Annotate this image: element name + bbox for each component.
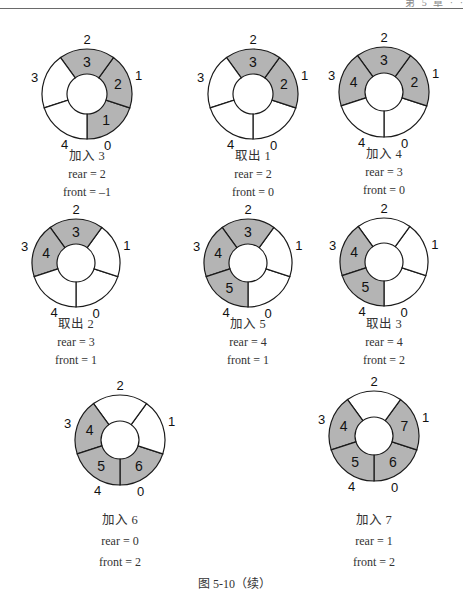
slot-index-label: 3 (31, 70, 38, 85)
slot-value: 4 (350, 74, 358, 90)
slot-index-label: 4 (222, 305, 229, 320)
slot-index-label: 1 (422, 410, 429, 425)
diagram-rear-text: rear = 0 (101, 534, 138, 548)
slot-value: 2 (411, 74, 419, 90)
queue-diagram-add-6: 64501234加入 6rear = 0front = 2 (64, 378, 175, 569)
slot-value: 5 (351, 454, 359, 470)
slot-index-label: 4 (50, 305, 57, 320)
slot-index-label: 4 (358, 304, 365, 319)
diagram-front-text: front = 2 (99, 555, 141, 569)
diagram-front-text: front = 1 (55, 353, 97, 367)
diagram-caption-text: 取出 2 (58, 317, 93, 331)
slot-value: 7 (401, 418, 409, 434)
slot-index-label: 4 (358, 135, 365, 150)
queue-diagram-add-4: 23401234加入 4rear = 3front = 0 (328, 30, 439, 197)
slot-value: 2 (280, 76, 288, 92)
diagram-caption-text: 加入 3 (69, 149, 104, 163)
slot-index-label: 4 (227, 137, 234, 152)
diagram-rear-text: rear = 4 (229, 335, 266, 349)
slot-value: 3 (83, 54, 91, 70)
diagram-caption-text: 加入 4 (366, 147, 402, 161)
diagram-rear-text: rear = 3 (365, 165, 402, 179)
queue-diagram-remove-3: 4501234取出 3rear = 4front = 2 (329, 201, 438, 367)
slot-index-label: 0 (104, 138, 111, 153)
slot-index-label: 1 (123, 238, 130, 253)
figure-caption: 图 5-10（续） (0, 574, 469, 592)
slot-value: 3 (244, 224, 252, 240)
slot-index-label: 0 (93, 306, 100, 321)
diagram-caption-text: 取出 3 (366, 317, 401, 331)
slot-index-label: 4 (348, 479, 355, 494)
slot-value: 2 (114, 76, 122, 92)
slot-value: 4 (42, 245, 50, 261)
queue-diagram-remove-1: 2301234取出 1rear = 2front = 0 (197, 32, 308, 199)
slot-value: 4 (340, 418, 348, 434)
diagram-front-text: front = 0 (232, 185, 274, 199)
queue-diagram-add-5: 34501234加入 5rear = 4front = 1 (193, 202, 302, 367)
slot-index-label: 3 (318, 412, 325, 427)
slot-value: 1 (102, 112, 110, 128)
slot-index-label: 0 (401, 136, 408, 151)
slot-index-label: 2 (116, 378, 123, 393)
diagram-rear-text: rear = 4 (365, 335, 402, 349)
slot-index-label: 2 (72, 202, 79, 217)
queue-diagram-add-7: 674501234加入 7rear = 1front = 2 (318, 374, 429, 569)
slot-index-label: 3 (328, 68, 335, 83)
slot-index-label: 2 (83, 32, 90, 47)
slot-value: 6 (389, 454, 397, 470)
circular-queue-diagrams: 12301234加入 3rear = 2front = –12301234取出 … (0, 0, 469, 596)
slot-index-label: 0 (391, 480, 398, 495)
slot-index-label: 1 (432, 66, 439, 81)
queue-slot-4-empty (210, 100, 253, 139)
slot-value: 5 (97, 458, 105, 474)
queue-slot-4-empty (341, 98, 384, 137)
slot-value: 4 (86, 422, 94, 438)
slot-index-label: 1 (168, 414, 175, 429)
slot-index-label: 1 (135, 68, 142, 83)
slot-value: 5 (362, 279, 370, 295)
slot-value: 5 (226, 280, 234, 296)
slot-index-label: 4 (61, 137, 68, 152)
diagram-caption-text: 加入 6 (102, 513, 137, 527)
slot-index-label: 2 (380, 30, 387, 45)
slot-index-label: 2 (380, 201, 387, 216)
slot-value: 3 (249, 54, 257, 70)
diagram-caption-text: 加入 7 (356, 513, 391, 527)
queue-slot-4-empty (34, 269, 76, 307)
diagram-rear-text: rear = 1 (355, 534, 392, 548)
slot-index-label: 2 (370, 374, 377, 389)
slot-index-label: 0 (401, 305, 408, 320)
slot-index-label: 1 (301, 68, 308, 83)
slot-value: 3 (380, 52, 388, 68)
diagram-rear-text: rear = 3 (57, 335, 94, 349)
slot-index-label: 1 (295, 238, 302, 253)
slot-value: 4 (350, 244, 358, 260)
slot-index-label: 1 (431, 237, 438, 252)
slot-index-label: 3 (193, 239, 200, 254)
slot-index-label: 2 (244, 202, 251, 217)
queue-diagram-add-3: 12301234加入 3rear = 2front = –1 (31, 32, 142, 199)
slot-index-label: 0 (270, 138, 277, 153)
diagram-caption-text: 取出 1 (235, 149, 270, 163)
slot-value: 3 (72, 224, 80, 240)
slot-index-label: 2 (249, 32, 256, 47)
diagram-caption-text: 加入 5 (230, 317, 265, 331)
diagram-rear-text: rear = 2 (234, 167, 271, 181)
diagram-front-text: front = 2 (363, 353, 405, 367)
slot-index-label: 0 (265, 306, 272, 321)
diagram-front-text: front = 1 (227, 353, 269, 367)
diagram-rear-text: rear = 2 (68, 167, 105, 181)
slot-value: 6 (135, 458, 143, 474)
diagram-front-text: front = –1 (63, 185, 111, 199)
queue-diagram-remove-2: 3401234取出 2rear = 3front = 1 (21, 202, 130, 367)
queue-slot-4-empty (44, 100, 87, 139)
slot-index-label: 3 (21, 239, 28, 254)
slot-index-label: 3 (329, 238, 336, 253)
slot-index-label: 3 (197, 70, 204, 85)
slot-index-label: 4 (94, 483, 101, 498)
slot-index-label: 3 (64, 416, 71, 431)
slot-index-label: 0 (137, 484, 144, 499)
diagram-front-text: front = 2 (353, 555, 395, 569)
diagram-front-text: front = 0 (363, 183, 405, 197)
slot-value: 4 (214, 245, 222, 261)
